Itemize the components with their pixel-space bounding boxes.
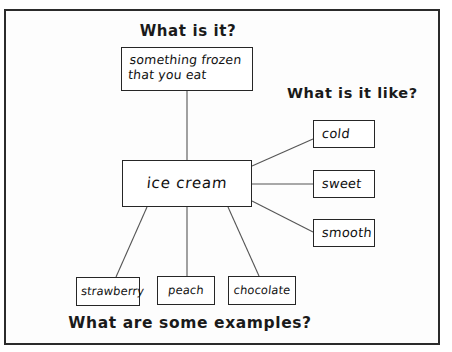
example-box-chocolate[interactable]: chocolate: [228, 276, 296, 305]
connector-topic-to-chocolate: [228, 207, 259, 276]
example-box-peach[interactable]: peach: [157, 276, 215, 305]
topic-box-label: ice cream: [122, 175, 252, 192]
topic-box[interactable]: ice cream: [122, 160, 252, 207]
attribute-box-smooth[interactable]: smooth: [313, 219, 375, 247]
attribute-label: sweet: [321, 177, 375, 192]
connector-topic-to-smooth: [252, 201, 313, 232]
attribute-box-sweet[interactable]: sweet: [313, 170, 375, 198]
attribute-label: smooth: [321, 226, 375, 241]
definition-box[interactable]: something frozenthat you eat: [121, 47, 253, 91]
heading-what-is-it: What is it?: [0, 22, 376, 40]
heading-what-are-some-examples: What are some examples?: [48, 314, 332, 332]
example-label: chocolate: [232, 284, 291, 297]
worksheet-canvas: What is it? What is it like? What are so…: [0, 0, 452, 352]
heading-what-is-it-like: What is it like?: [287, 85, 418, 101]
attribute-label: cold: [321, 127, 375, 142]
attribute-box-cold[interactable]: cold: [313, 120, 375, 148]
definition-box-label: something frozenthat you eat: [127, 52, 246, 83]
definition-line-1: something frozen: [129, 52, 242, 67]
definition-line-2: that you eat: [127, 67, 207, 82]
example-box-strawberry[interactable]: strawberry: [76, 277, 140, 306]
example-label: strawberry: [80, 285, 135, 298]
example-label: peach: [161, 284, 210, 297]
connector-topic-to-cold: [252, 139, 313, 166]
connector-topic-to-strawberry: [116, 207, 147, 277]
